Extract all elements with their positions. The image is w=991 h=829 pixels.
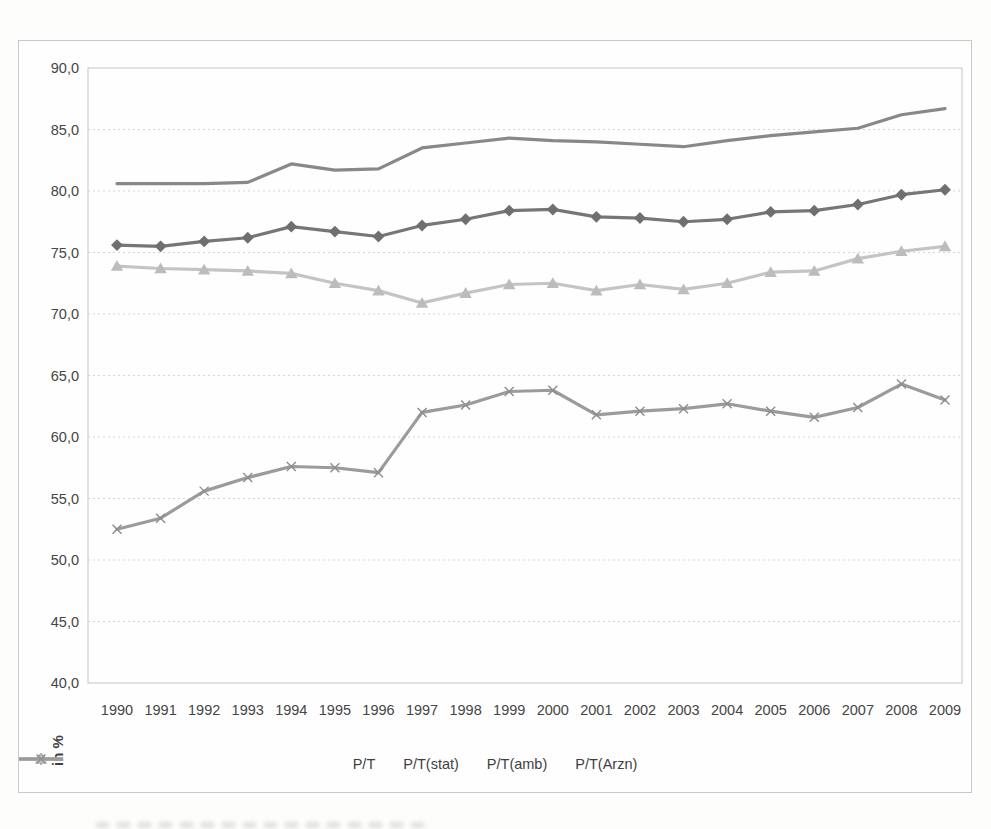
legend: P/TP/T(stat)P/T(amb)P/T(Arzn): [19, 752, 971, 776]
x-tick-label: 1997: [406, 702, 438, 718]
series-p-t-stat-: [117, 109, 945, 184]
x-tick-label: 2000: [537, 702, 569, 718]
x-tick-label: 1998: [449, 702, 481, 718]
series-line: [117, 246, 945, 303]
x-tick-label: 2008: [885, 702, 917, 718]
diamond-marker: [111, 239, 123, 251]
x-tick-label: 1992: [188, 702, 220, 718]
y-tick-label: 80,0: [51, 183, 79, 199]
diamond-marker: [547, 204, 559, 216]
line-chart: 90,085,080,075,070,065,060,055,050,045,0…: [19, 41, 971, 792]
legend-item-p-t-stat-: P/T(stat): [403, 756, 459, 772]
series-line: [117, 190, 945, 247]
cropped-text-fragment: [96, 822, 428, 828]
x-tick-label: 2009: [929, 702, 961, 718]
legend-label: P/T: [353, 756, 376, 772]
diamond-marker: [503, 205, 515, 217]
diamond-marker: [721, 213, 733, 225]
diamond-marker: [155, 240, 167, 252]
x-tick-label: 1994: [275, 702, 307, 718]
series-p-t: [111, 184, 951, 252]
diamond-marker: [590, 211, 602, 223]
series-line: [117, 384, 945, 529]
y-tick-label: 70,0: [51, 306, 79, 322]
y-tick-label: 60,0: [51, 429, 79, 445]
series-p-t-amb-: [111, 240, 951, 307]
diamond-marker: [460, 213, 472, 225]
diamond-marker: [765, 206, 777, 218]
x-tick-label: 1995: [319, 702, 351, 718]
diamond-marker: [895, 189, 907, 201]
x-tick-label: 1999: [493, 702, 525, 718]
y-tick-label: 75,0: [51, 245, 79, 261]
y-tick-label: 55,0: [51, 491, 79, 507]
legend-item-p-t-arzn-: P/T(Arzn): [575, 756, 637, 772]
x-tick-label: 2002: [624, 702, 656, 718]
diamond-marker: [242, 232, 254, 244]
legend-item-p-t-amb-: P/T(amb): [487, 756, 547, 772]
x-tick-label: 1990: [101, 702, 133, 718]
x-tick-label: 2005: [755, 702, 787, 718]
diamond-marker: [416, 220, 428, 232]
legend-label: P/T(amb): [487, 756, 547, 772]
y-tick-label: 65,0: [51, 368, 79, 384]
x-tick-label: 2007: [842, 702, 874, 718]
diamond-marker: [678, 216, 690, 228]
y-tick-label: 85,0: [51, 122, 79, 138]
y-tick-label: 50,0: [51, 552, 79, 568]
diamond-marker: [329, 226, 341, 238]
x-tick-label: 1993: [232, 702, 264, 718]
diamond-marker: [285, 221, 297, 233]
series-line: [117, 109, 945, 184]
legend-label: P/T(Arzn): [575, 756, 637, 772]
x-tick-label: 2006: [798, 702, 830, 718]
diamond-marker: [634, 212, 646, 224]
scanned-page: 90,085,080,075,070,065,060,055,050,045,0…: [0, 0, 991, 829]
x-tick-label: 2004: [711, 702, 743, 718]
legend-label: P/T(stat): [403, 756, 459, 772]
x-tick-label: 2003: [667, 702, 699, 718]
x-tick-label: 1991: [144, 702, 176, 718]
series-p-t-arzn-: [113, 380, 950, 534]
diamond-marker: [198, 235, 210, 247]
y-tick-label: 45,0: [51, 614, 79, 630]
diamond-marker: [939, 184, 951, 196]
y-tick-label: 90,0: [51, 60, 79, 76]
legend-item-p-t: P/T: [353, 756, 376, 772]
x-tick-label: 2001: [580, 702, 612, 718]
y-tick-label: 40,0: [51, 675, 79, 691]
diamond-marker: [808, 205, 820, 217]
legend-swatch: [19, 752, 63, 766]
x-tick-label: 1996: [362, 702, 394, 718]
diamond-marker: [852, 199, 864, 211]
diamond-marker: [373, 231, 385, 243]
chart-frame: 90,085,080,075,070,065,060,055,050,045,0…: [18, 40, 972, 793]
